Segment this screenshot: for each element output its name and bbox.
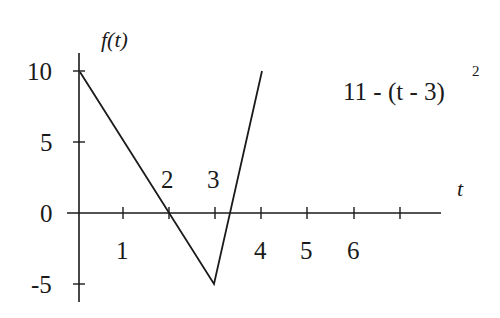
x-tick-label: 3 <box>207 166 220 193</box>
x-axis-label: t <box>457 176 464 201</box>
y-tick-label: 0 <box>40 200 53 227</box>
formula-superscript: 2 <box>472 63 480 79</box>
x-tick-label: 4 <box>254 237 267 264</box>
chart: f(t) t 10 5 0 -5 1 2 3 4 5 6 11 - (t - 3… <box>0 0 500 318</box>
x-tick-label: 5 <box>300 237 313 264</box>
x-tick-label: 6 <box>347 237 360 264</box>
y-axis-label: f(t) <box>101 27 128 52</box>
x-tick-label: 1 <box>116 237 129 264</box>
y-tick-label: 10 <box>27 58 52 85</box>
x-tick-label: 2 <box>161 166 174 193</box>
formula-annotation: 11 - (t - 3) <box>343 78 445 106</box>
y-tick-label: 5 <box>40 129 53 156</box>
y-tick-label: -5 <box>31 271 52 298</box>
